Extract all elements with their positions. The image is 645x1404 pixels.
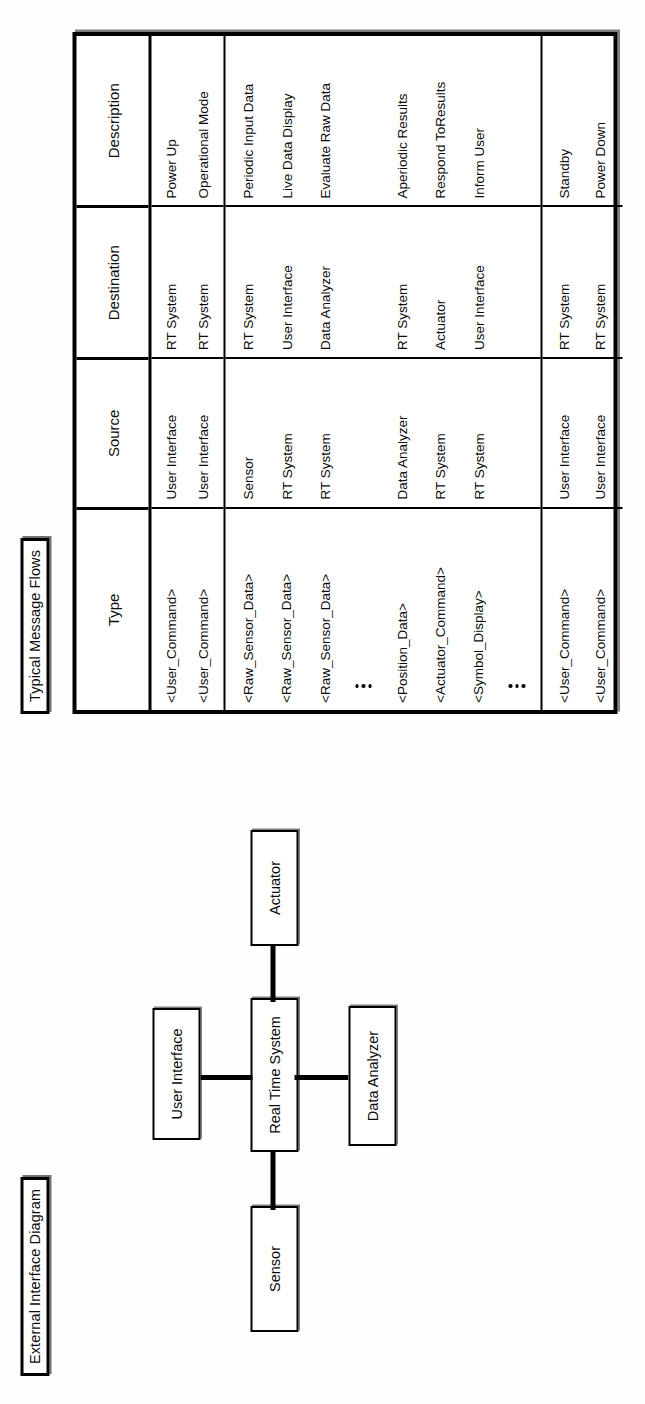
external-interface-diagram-title: External Interface Diagram [20, 1177, 49, 1376]
table-cell: Operational Mode [195, 36, 211, 206]
table-cell: <Actuator_Command> [432, 509, 448, 710]
typical-message-flows-title: Typical Message Flows [20, 538, 49, 714]
group-operational-source-column: Sensor RT System RT System Data Analyzer… [225, 357, 540, 507]
column-header-type: Type [76, 507, 148, 710]
table-cell: <Symbol_Display> [470, 509, 486, 710]
table-cell-ellipsis [355, 509, 372, 710]
table-cell-blank [509, 359, 524, 507]
group-shutdown-destination-column: RT System RT System [542, 206, 622, 358]
table-cell: RT System [279, 359, 295, 507]
diagram-node-data-analyzer: Data Analyzer [348, 1006, 396, 1146]
diagram-node-sensor-label: Sensor [266, 1246, 282, 1292]
table-cell: <User_Command> [163, 509, 179, 710]
group-operational-description-column: Periodic Input Data Live Data Display Ev… [225, 36, 540, 206]
group-startup-source-column: User Interface User Interface [151, 357, 223, 507]
group-shutdown-type-column: <User_Command> <User_Command> [542, 507, 622, 710]
group-startup-destination-column: RT System RT System [151, 206, 223, 358]
table-cell-blank [509, 36, 524, 206]
table-cell: User Interface [163, 359, 179, 507]
table-cell: User Interface [592, 359, 608, 507]
table-cell: RT System [317, 359, 333, 507]
connector-rts-actuator [270, 946, 275, 1002]
group-shutdown-source-column: User Interface User Interface [542, 357, 622, 507]
column-header-description: Description [76, 36, 148, 205]
table-cell: RT System [394, 208, 410, 358]
diagram-node-user-interface-label: User Interface [168, 1028, 184, 1119]
diagram-node-real-time-system-label: Real Time System [266, 1016, 282, 1134]
table-cell: Power Up [163, 36, 179, 206]
connector-rts-data-analyzer [294, 1075, 348, 1080]
group-operational-destination-column: RT System User Interface Data Analyzer R… [225, 206, 540, 358]
table-cell: <Raw_Sensor_Data> [278, 509, 294, 710]
table-cell: Power Down [592, 36, 608, 206]
page-canvas: External Interface Diagram Sensor Real T… [0, 0, 645, 1404]
table-group-startup: <User_Command> <User_Command> User Inter… [151, 36, 225, 710]
diagram-node-actuator: Actuator [250, 830, 298, 946]
diagram-node-sensor: Sensor [250, 1206, 298, 1332]
table-cell: <User_Command> [556, 509, 572, 710]
table-header-row: Type Source Destination Description [76, 36, 151, 710]
table-cell: Periodic Input Data [240, 36, 256, 206]
diagram-node-real-time-system: Real Time System [250, 998, 298, 1152]
column-header-source: Source [76, 357, 148, 507]
table-cell: <Raw_Sensor_Data> [240, 509, 256, 710]
group-startup-type-column: <User_Command> <User_Command> [151, 507, 223, 710]
table-cell: Evaluate Raw Data [317, 36, 333, 206]
group-operational-type-column: <Raw_Sensor_Data> <Raw_Sensor_Data> <Raw… [225, 507, 540, 710]
table-cell-blank [509, 208, 524, 358]
table-group-operational: <Raw_Sensor_Data> <Raw_Sensor_Data> <Raw… [225, 36, 542, 710]
diagram-node-user-interface: User Interface [152, 1008, 200, 1140]
table-cell: <User_Command> [195, 509, 211, 710]
table-cell: RT System [556, 208, 572, 358]
connector-user-interface-rts [196, 1075, 252, 1080]
table-cell: User Interface [279, 208, 295, 358]
table-cell-blank [356, 208, 371, 358]
connector-sensor-rts [270, 1152, 275, 1210]
table-cell: RT System [195, 208, 211, 358]
table-cell: <User_Command> [592, 509, 608, 710]
table-group-shutdown: <User_Command> <User_Command> User Inter… [542, 36, 622, 710]
table-cell: RT System [240, 208, 256, 358]
message-flows-table: Type Source Destination Description <Use… [72, 32, 617, 714]
table-cell: User Interface [471, 208, 487, 358]
group-shutdown-description-column: Standby Power Down [542, 36, 622, 206]
table-cell-blank [356, 36, 371, 206]
table-cell: Data Analyzer [317, 208, 333, 358]
table-cell: <Position_Data> [394, 509, 410, 710]
table-cell: RT System [471, 359, 487, 507]
table-cell: <Raw_Sensor_Data> [317, 509, 333, 710]
table-cell-blank [356, 359, 371, 507]
table-cell: Respond ToResults [432, 36, 448, 206]
table-cell: RT System [163, 208, 179, 358]
group-startup-description-column: Power Up Operational Mode [151, 36, 223, 206]
table-cell: User Interface [195, 359, 211, 507]
table-cell: User Interface [556, 359, 572, 507]
diagram-node-data-analyzer-label: Data Analyzer [364, 1031, 380, 1121]
table-cell: RT System [592, 208, 608, 358]
column-header-destination: Destination [76, 206, 148, 358]
table-cell: Data Analyzer [394, 359, 410, 507]
table-cell: Standby [556, 36, 572, 206]
table-cell: RT System [432, 359, 448, 507]
table-cell: Inform User [471, 36, 487, 206]
table-cell: Aperiodic Results [394, 36, 410, 206]
diagram-node-actuator-label: Actuator [266, 861, 282, 915]
table-cell-ellipsis [508, 509, 525, 710]
table-cell: Actuator [432, 208, 448, 358]
table-cell: Sensor [240, 359, 256, 507]
table-cell: Live Data Display [279, 36, 295, 206]
